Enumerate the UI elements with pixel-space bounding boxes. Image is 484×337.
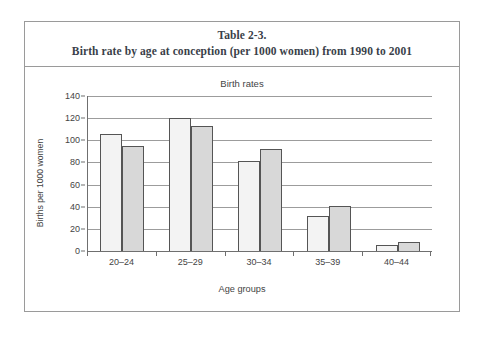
- bar: [307, 216, 329, 251]
- bar: [376, 245, 398, 251]
- x-tick-mark: [87, 252, 88, 256]
- y-tick-label: 40: [70, 202, 80, 212]
- chart-container: Birth rates Births per 1000 women 020406…: [25, 72, 459, 312]
- x-axis-labels: 20–2425–2930–3435–3940–44: [87, 257, 431, 267]
- y-tick-mark: [81, 118, 85, 119]
- x-tick-mark: [362, 252, 363, 256]
- y-tick-label: 100: [65, 135, 80, 145]
- y-tick-label: 140: [65, 91, 80, 101]
- bar: [100, 134, 122, 251]
- y-axis-title-text: Births per 1000 women: [35, 139, 45, 227]
- x-tick-label: 35–39: [293, 257, 362, 267]
- y-tick-mark: [81, 96, 85, 97]
- x-tick-mark: [430, 252, 431, 256]
- y-tick-label: 20: [70, 224, 80, 234]
- bar: [191, 126, 213, 251]
- x-tick-label: 20–24: [87, 257, 156, 267]
- bar-group: [157, 96, 226, 251]
- y-axis-ticks: 020406080100120140: [61, 96, 85, 251]
- x-tick-mark: [156, 252, 157, 256]
- x-tick-mark: [293, 252, 294, 256]
- y-tick-mark: [81, 184, 85, 185]
- y-tick-label: 120: [65, 113, 80, 123]
- x-tick-label: 25–29: [156, 257, 225, 267]
- plot-wrapper: 020406080100120140 20–2425–2930–3435–394…: [61, 96, 431, 271]
- y-tick-label: 0: [75, 246, 80, 256]
- y-axis-title: Births per 1000 women: [33, 108, 47, 258]
- y-tick-label: 60: [70, 180, 80, 190]
- y-tick-label: 80: [70, 157, 80, 167]
- screenshot-page: Table 2-3. Birth rate by age at concepti…: [0, 0, 484, 337]
- table-caption: Table 2-3. Birth rate by age at concepti…: [25, 22, 459, 67]
- x-tick-label: 40–44: [362, 257, 431, 267]
- y-tick-mark: [81, 140, 85, 141]
- x-tick-mark: [225, 252, 226, 256]
- bar: [238, 161, 260, 251]
- x-axis-title: Age groups: [25, 284, 459, 294]
- x-tick-label: 30–34: [225, 257, 294, 267]
- bar-group: [88, 96, 157, 251]
- bar: [169, 118, 191, 251]
- bar-group: [226, 96, 295, 251]
- y-tick-mark: [81, 228, 85, 229]
- bar: [329, 206, 351, 251]
- caption-table-number: Table 2-3.: [33, 28, 451, 43]
- y-tick-mark: [81, 251, 85, 252]
- chart-title: Birth rates: [25, 78, 459, 89]
- bars-layer: [88, 96, 432, 251]
- table-frame: Table 2-3. Birth rate by age at concepti…: [24, 21, 460, 312]
- plot-area: [87, 96, 432, 252]
- bar: [398, 242, 420, 251]
- caption-table-title: Birth rate by age at conception (per 100…: [33, 43, 451, 59]
- y-tick-mark: [81, 206, 85, 207]
- bar: [122, 146, 144, 251]
- bar-group: [363, 96, 432, 251]
- bar-group: [294, 96, 363, 251]
- bar: [260, 149, 282, 251]
- y-tick-mark: [81, 162, 85, 163]
